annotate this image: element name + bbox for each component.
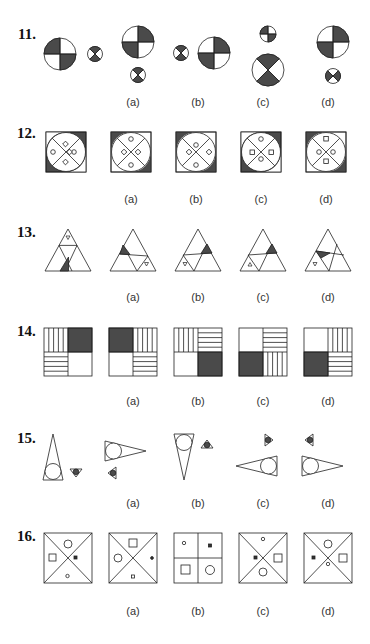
option-11b-figure[interactable] — [173, 36, 233, 72]
option-15b-figure[interactable] — [173, 432, 221, 482]
option-12b-figure[interactable] — [175, 131, 217, 173]
question-number: 15. — [17, 430, 36, 447]
option-label-c: (c) — [248, 497, 278, 509]
question-number: 11. — [18, 26, 36, 43]
option-label-a: (a) — [116, 193, 146, 205]
question-11-figure — [40, 34, 110, 74]
option-label-a: (a) — [118, 497, 148, 509]
question-15-figure — [42, 433, 86, 481]
option-label-a: (a) — [118, 291, 148, 303]
option-label-b: (b) — [183, 497, 213, 509]
option-15a-figure[interactable] — [104, 437, 148, 481]
option-label-a: (a) — [118, 96, 148, 108]
option-11d-figure[interactable] — [313, 24, 353, 86]
option-label-b: (b) — [183, 291, 213, 303]
question-13-figure — [44, 228, 92, 272]
option-label-b: (b) — [183, 395, 213, 407]
option-15c-figure[interactable] — [235, 432, 283, 482]
question-number: 14. — [17, 323, 36, 340]
question-12-figure — [45, 131, 87, 173]
option-11a-figure[interactable] — [118, 24, 158, 86]
option-14c-figure[interactable] — [239, 328, 287, 376]
option-label-c: (c) — [248, 96, 278, 108]
option-16d-figure[interactable] — [304, 533, 352, 583]
option-13c-figure[interactable] — [239, 228, 287, 272]
option-11c-figure[interactable] — [248, 24, 288, 88]
option-label-d: (d) — [313, 497, 343, 509]
option-label-d: (d) — [313, 605, 343, 617]
option-label-c: (c) — [248, 395, 278, 407]
option-13b-figure[interactable] — [174, 228, 222, 272]
option-label-b: (b) — [183, 96, 213, 108]
option-12c-figure[interactable] — [240, 131, 282, 173]
option-label-a: (a) — [118, 395, 148, 407]
question-number: 12. — [17, 125, 36, 142]
option-13a-figure[interactable] — [109, 228, 157, 272]
option-14b-figure[interactable] — [174, 328, 222, 376]
option-16a-figure[interactable] — [109, 533, 157, 583]
question-number: 13. — [17, 224, 36, 241]
option-label-d: (d) — [313, 395, 343, 407]
option-12d-figure[interactable] — [305, 131, 347, 173]
option-label-b: (b) — [181, 193, 211, 205]
option-label-d: (d) — [311, 193, 341, 205]
option-16c-figure[interactable] — [239, 533, 287, 583]
option-label-c: (c) — [246, 193, 276, 205]
option-label-c: (c) — [248, 291, 278, 303]
option-label-d: (d) — [313, 291, 343, 303]
option-label-c: (c) — [248, 605, 278, 617]
option-15d-figure[interactable] — [301, 432, 349, 482]
option-14a-figure[interactable] — [109, 328, 157, 376]
option-16b-figure[interactable] — [174, 533, 222, 583]
option-label-a: (a) — [118, 605, 148, 617]
question-16-figure — [44, 533, 92, 583]
option-12a-figure[interactable] — [110, 131, 152, 173]
option-label-d: (d) — [313, 96, 343, 108]
question-14-figure — [44, 328, 92, 376]
question-number: 16. — [17, 528, 36, 545]
option-label-b: (b) — [183, 605, 213, 617]
option-14d-figure[interactable] — [304, 328, 352, 376]
option-13d-figure[interactable] — [304, 228, 352, 272]
